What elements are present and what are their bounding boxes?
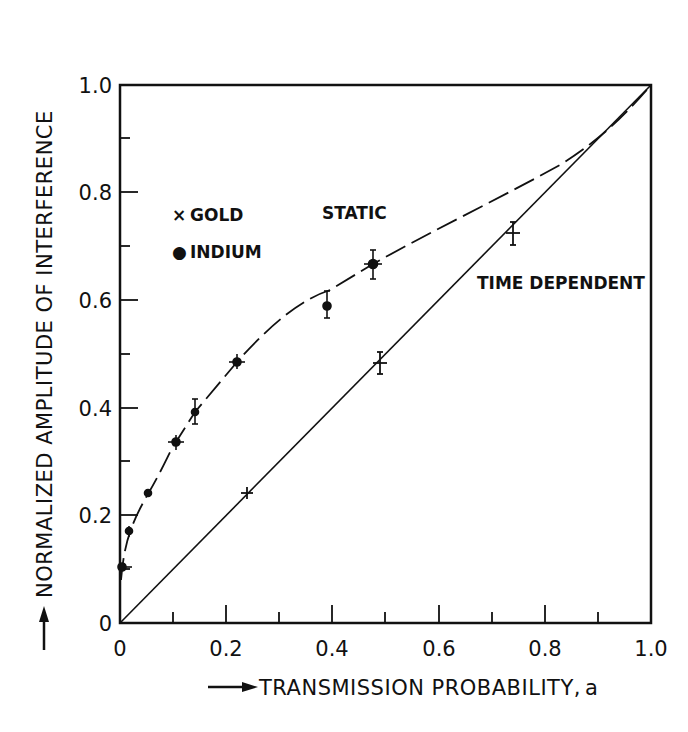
static-points [118,250,382,571]
data-point [364,250,382,279]
data-point [192,399,199,424]
svg-text:1.0: 1.0 [79,74,112,98]
legend-gold-label: GOLD [190,205,243,225]
arrow-up-icon [39,606,49,622]
data-point [145,490,152,497]
time-dependent-annotation: TIME DEPENDENT [477,273,645,293]
arrow-right-icon [242,682,258,692]
svg-text:1.0: 1.0 [634,637,667,661]
x-ticks [173,605,598,623]
static-annotation: STATIC [322,203,387,223]
svg-text:0: 0 [113,637,126,661]
data-point [168,435,184,450]
legend: × GOLD ● INDIUM [172,205,262,262]
svg-text:0.2: 0.2 [209,637,242,661]
x-axis-title: TRANSMISSION PROBABILITY,a [208,676,598,700]
chart-canvas: NORMALIZED AMPLITUDE OF INTERFERENCE 0 0… [0,0,688,732]
x-tick-labels: 0 0.2 0.4 0.6 0.8 1.0 [113,637,667,661]
legend-indium-marker: ● [172,242,187,262]
time-dependent-line [120,85,651,623]
data-point [126,526,133,537]
svg-text:0: 0 [99,612,112,636]
svg-text:0.4: 0.4 [79,397,112,421]
svg-text:0.6: 0.6 [422,637,455,661]
data-point [506,222,520,245]
legend-indium-label: INDIUM [190,242,262,262]
data-point [323,291,331,318]
static-curve [121,85,651,580]
svg-text:0.2: 0.2 [79,504,112,528]
y-tick-labels: 0 0.2 0.4 0.6 0.8 1.0 [79,74,112,636]
x-axis-label: TRANSMISSION PROBABILITY,a [258,676,598,700]
y-axis-title: NORMALIZED AMPLITUDE OF INTERFERENCE [33,110,57,650]
svg-text:0.4: 0.4 [315,637,348,661]
data-point [241,487,253,499]
y-ticks [120,138,138,569]
y-axis-label: NORMALIZED AMPLITUDE OF INTERFERENCE [33,110,57,598]
svg-text:0.6: 0.6 [79,289,112,313]
legend-gold-marker: × [172,205,186,225]
svg-text:0.8: 0.8 [79,181,112,205]
data-point [229,354,245,369]
svg-text:0.8: 0.8 [528,637,561,661]
